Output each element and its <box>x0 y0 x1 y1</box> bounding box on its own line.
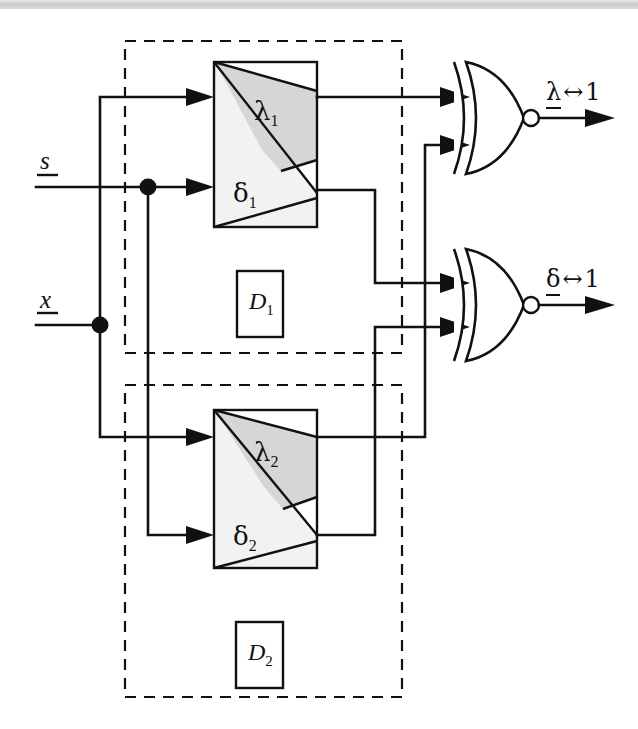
unit-box-1 <box>214 62 317 227</box>
gate2-output-label: δ↔1 <box>546 265 600 293</box>
logic-diagram-svg <box>0 0 638 729</box>
gate1-output-val: 1 <box>585 78 600 106</box>
function-label-lambda2: λ2 <box>254 437 278 471</box>
function-label-lambda1: λ1 <box>254 96 278 130</box>
function-label-delta2: δ2 <box>233 521 257 555</box>
module-label-D1: D1 <box>249 288 274 319</box>
junction-dot-x <box>92 317 109 334</box>
gate1-output-op: ↔ <box>563 78 583 106</box>
scan-edge-band <box>0 0 638 9</box>
input-label-x: x <box>40 286 51 314</box>
module-label-D2: D2 <box>248 639 273 670</box>
arrowhead-lambda2-in <box>186 428 214 446</box>
gate1-output-label: λ↔1 <box>546 78 601 106</box>
unit-box-2 <box>214 410 317 568</box>
arrowhead-lambda1-in <box>186 88 214 106</box>
function-label-delta1: δ1 <box>233 178 257 212</box>
gate2-output-val: 1 <box>585 265 600 293</box>
net-x <box>36 97 206 437</box>
gate2-output-op: ↔ <box>562 265 582 293</box>
input-label-s: s <box>40 147 50 175</box>
figure-canvas: s x λ1 δ1 λ2 δ2 D1 D2 λ↔1 δ↔1 <box>0 0 638 729</box>
arrowhead-delta2-in <box>186 526 214 544</box>
arrowhead-gate2-out <box>585 296 615 314</box>
net-s <box>36 187 206 535</box>
junction-dot-s <box>140 179 157 196</box>
gate2-output-var: δ <box>546 265 560 296</box>
inversion-bubble-2 <box>523 297 539 313</box>
gate1-output-var: λ <box>546 78 561 109</box>
inversion-bubble-1 <box>523 110 539 126</box>
arrowhead-delta1-in <box>186 178 214 196</box>
arrowhead-gate1-out <box>585 109 615 127</box>
